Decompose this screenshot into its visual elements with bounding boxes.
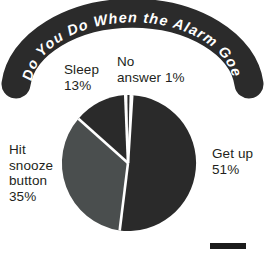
label-hit-snooze: Hit snooze button 35%	[9, 142, 53, 204]
label-sleep: Sleep 13%	[64, 62, 99, 93]
label-get-up-pct: 51%	[212, 162, 253, 178]
label-hit-snooze-line1: Hit	[9, 142, 53, 158]
pie-chart-infographic: What Do You Do When the Alarm Goes Off? …	[0, 0, 265, 257]
label-sleep-name: Sleep	[64, 62, 99, 77]
label-get-up: Get up 51%	[212, 146, 253, 177]
label-hit-snooze-pct: 35%	[9, 189, 53, 205]
label-no-answer-line1: No	[117, 54, 134, 69]
label-hit-snooze-line2: snooze	[9, 158, 53, 174]
label-no-answer: No answer 1%	[117, 54, 185, 85]
label-hit-snooze-line3: button	[9, 173, 53, 189]
pie-chart	[0, 0, 265, 257]
label-get-up-name: Get up	[212, 146, 253, 161]
footer-rule	[210, 243, 246, 249]
label-no-answer-line2: answer 1%	[117, 70, 185, 86]
label-sleep-pct: 13%	[64, 78, 99, 94]
